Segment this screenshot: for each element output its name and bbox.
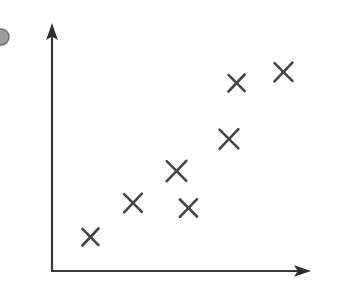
scatter-plot-canvas — [0, 0, 346, 291]
scatter-plot-figure — [0, 0, 346, 291]
partial-circle-edge-icon — [0, 29, 9, 45]
